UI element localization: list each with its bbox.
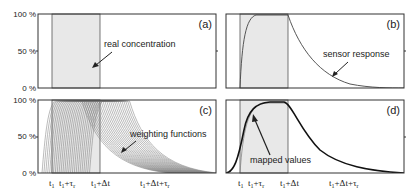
y-tick-50: 50 % bbox=[18, 132, 36, 141]
annotation-mapped-values: mapped values bbox=[250, 155, 312, 165]
x-tick-t1: t1 bbox=[49, 178, 55, 189]
x-tick-labels-c: t1 t1+τr t1+Δt t1+Δt+τr bbox=[49, 178, 170, 189]
y-tick-0: 0 % bbox=[22, 169, 36, 178]
panel-b: (b) sensor response bbox=[226, 14, 406, 88]
y-axis-labels-bottom: 100 % 50 % 0 % bbox=[13, 96, 36, 178]
panel-label-a: (a) bbox=[199, 18, 212, 30]
annotation-weighting-functions: weighting functions bbox=[129, 129, 207, 139]
panel-label-d: (d) bbox=[387, 104, 400, 116]
x-tick-t1-dt-tau: t1+Δt+τr bbox=[329, 178, 359, 189]
panel-label-b: (b) bbox=[387, 18, 400, 30]
annotation-real-concentration: real concentration bbox=[104, 39, 176, 49]
y-tick-100: 100 % bbox=[13, 96, 36, 105]
panel-a: (a) real concentration bbox=[36, 14, 218, 88]
x-tick-t1-tau: t1+τr bbox=[59, 178, 75, 189]
y-tick-0: 0 % bbox=[22, 84, 36, 93]
figure: 100 % 50 % 0 % 100 % 50 % 0 % (a) real c… bbox=[0, 0, 417, 196]
panel-label-c: (c) bbox=[199, 104, 212, 116]
panel-c: (c) weighting functions bbox=[36, 100, 218, 173]
annotation-sensor-response: sensor response bbox=[323, 49, 390, 59]
panel-d: (d) mapped values bbox=[226, 100, 406, 173]
y-tick-100: 100 % bbox=[13, 10, 36, 19]
x-tick-t1-dt-tau: t1+Δt+τr bbox=[140, 178, 170, 189]
x-tick-t1-dt: t1+Δt bbox=[280, 178, 299, 189]
x-tick-labels-d: t1 t1+τr t1+Δt t1+Δt+τr bbox=[238, 178, 359, 189]
real-concentration-pulse bbox=[52, 14, 100, 88]
x-tick-t1-dt: t1+Δt bbox=[91, 178, 110, 189]
x-tick-t1-tau: t1+τr bbox=[248, 178, 264, 189]
y-axis-labels-top: 100 % 50 % 0 % bbox=[13, 10, 36, 93]
x-tick-t1: t1 bbox=[238, 178, 244, 189]
y-tick-50: 50 % bbox=[18, 47, 36, 56]
